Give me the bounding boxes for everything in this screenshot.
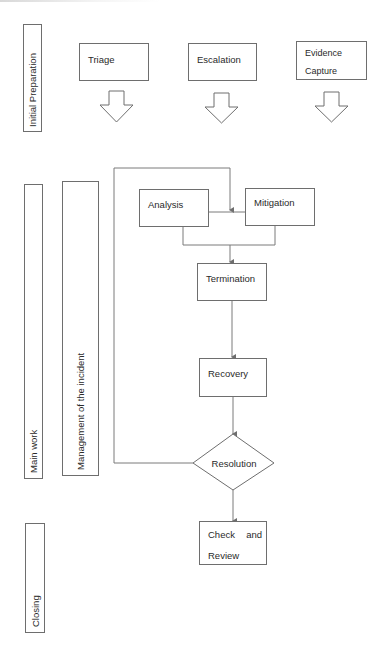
phase-lane-initial-preparation: Initial Preparation: [23, 24, 42, 132]
node-recovery: Recovery: [199, 358, 267, 397]
phase-lane-main-work: Main work: [24, 184, 43, 479]
node-check-word: Check: [208, 530, 235, 540]
node-termination-label: Termination: [206, 274, 255, 284]
node-mitigation-label: Mitigation: [254, 198, 295, 208]
node-resolution-label: Resolution: [212, 458, 257, 469]
sub-lane-label-management: Management of the incident: [75, 353, 86, 470]
step-triage-label: Triage: [88, 55, 115, 65]
block-arrow-down-icon: [315, 92, 348, 122]
phase-label-main-work: Main work: [28, 430, 39, 473]
phase-label-initial-preparation: Initial Preparation: [27, 53, 38, 127]
connector-layer: [0, 0, 383, 647]
sub-lane-management: Management of the incident: [62, 181, 99, 476]
step-escalation: Escalation: [188, 43, 257, 81]
phase-label-closing: Closing: [30, 595, 41, 627]
node-termination: Termination: [197, 263, 267, 301]
node-recovery-label: Recovery: [208, 369, 248, 379]
node-mitigation: Mitigation: [245, 188, 315, 226]
step-evidence-label-line2: Capture: [305, 67, 337, 76]
step-evidence-capture: Evidence Capture: [296, 41, 367, 80]
node-check-and-review: Check and Review: [199, 521, 267, 565]
node-review-word: Review: [208, 551, 239, 561]
node-check-line1: Check and: [208, 530, 262, 540]
step-escalation-label: Escalation: [197, 55, 241, 65]
node-and-word: and: [246, 530, 262, 540]
step-evidence-label-line1: Evidence: [305, 49, 342, 58]
block-arrow-down-icon: [100, 91, 133, 122]
block-arrow-down-icon: [205, 93, 238, 123]
merge-connector: [183, 226, 275, 245]
node-analysis: Analysis: [139, 189, 209, 227]
node-analysis-label: Analysis: [148, 200, 183, 210]
step-triage: Triage: [79, 43, 149, 81]
phase-lane-closing: Closing: [25, 523, 45, 633]
